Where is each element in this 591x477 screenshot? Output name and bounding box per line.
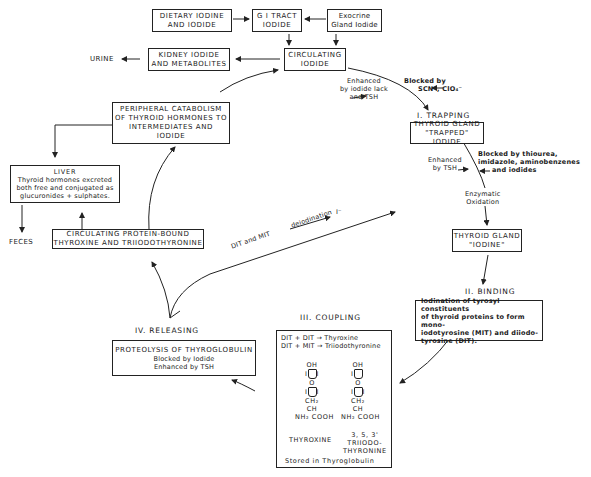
- t4-ring-2: II: [295, 387, 329, 397]
- enz-1: Enzymatic: [465, 190, 501, 198]
- coupling-reactions: DIT + DIT → Thyroxine DIT + MIT → Triiod…: [277, 331, 391, 350]
- circulating-iodide-box: CIRCULATING IODIDE: [284, 48, 346, 71]
- gi-line-1: G I TRACT: [253, 12, 301, 21]
- trap-enh-3: and TSH: [340, 93, 388, 101]
- circ-line-2: IODIDE: [285, 60, 345, 69]
- peri-line-1: PERIPHERAL CATABOLISM: [113, 105, 229, 114]
- ox-block-2: imidazole, aminobenzenes: [478, 158, 580, 166]
- peri-line-4: IODIDE: [113, 132, 229, 141]
- iodine-line-2: "IODINE": [453, 241, 521, 250]
- exocrine-line-1: Exocrine: [328, 12, 381, 21]
- iodine-line-1: THYROID GLAND: [453, 232, 521, 241]
- bind-line-2: of thyroid proteins to form mono-: [421, 313, 542, 329]
- reaction-2: DIT + MIT → Triiodothyronine: [281, 342, 391, 350]
- benzene-ring-icon: [354, 387, 363, 397]
- liver-box: LIVER Thyroid hormones excreted both fre…: [10, 165, 120, 203]
- iodide-ion-label: I⁻: [336, 208, 342, 216]
- kidney-iodide-box: KIDNEY IODIDE AND METABOLITES: [148, 48, 230, 71]
- circ-line-1: CIRCULATING: [285, 51, 345, 60]
- thyroid-gland-iodine-box: THYROID GLAND "IODINE": [452, 229, 522, 252]
- releasing-heading: IV. RELEASING: [135, 326, 199, 335]
- t4-o: O: [295, 379, 329, 387]
- trap-block-2: SCN⁻, ClO₄⁻: [404, 85, 462, 93]
- exocrine-gland-box: Exocrine Gland Iodide: [327, 9, 382, 32]
- oxidation-blocked-label: Blocked by thiourea, imidazole, aminoben…: [478, 150, 580, 174]
- benzene-ring-icon: [308, 369, 317, 379]
- binding-heading: II. BINDING: [465, 287, 515, 296]
- trapping-blocked-label: Blocked by SCN⁻, ClO₄⁻: [404, 77, 462, 93]
- bind-line-3: iodotyrosine (MIT) and diiodo-: [421, 329, 542, 337]
- exocrine-line-2: Gland Iodide: [328, 21, 381, 30]
- peri-line-2: OF THYROID HORMONES TO: [113, 114, 229, 123]
- coupling-box: DIT + DIT → Thyroxine DIT + MIT → Triiod…: [276, 330, 392, 468]
- prot-line-2: Blocked by Iodide: [113, 355, 255, 363]
- t3-name-3: THYRONINE: [343, 447, 387, 455]
- trapped-line-2: "TRAPPED" IODIDE: [411, 129, 483, 147]
- urine-label: URINE: [90, 55, 114, 64]
- dietary-line-2: AND IODIDE: [153, 21, 231, 30]
- t3-i4: I: [363, 388, 366, 396]
- t3-ch: CH: [341, 405, 375, 413]
- dietary-iodine-box: DIETARY IODINE AND IODIDE: [152, 9, 232, 32]
- enz-2: Oxidation: [465, 198, 501, 206]
- liver-title: LIVER: [11, 168, 119, 176]
- t4-oh: OH: [295, 361, 329, 369]
- peri-line-3: INTERMEDIATES AND: [113, 123, 229, 132]
- t4-i2: I: [317, 370, 320, 378]
- oxidation-enhanced-label: Enhanced by TSH: [428, 156, 462, 172]
- t3-nh2-cooh: NH₂ COOH: [341, 413, 375, 421]
- thyroid-trapped-iodide-box: THYROID GLAND "TRAPPED" IODIDE: [410, 122, 484, 144]
- trapped-line-1: THYROID GLAND: [411, 120, 483, 129]
- t4-nh2-cooh: NH₂ COOH: [295, 413, 329, 421]
- triiodothyronine-structure: OH II O II CH₂ CH NH₂ COOH: [341, 361, 375, 421]
- thyroxine-structure: OH II O II CH₂ CH NH₂ COOH: [295, 361, 329, 421]
- t3-o: O: [341, 379, 375, 387]
- pb-line-1: CIRCULATING PROTEIN-BOUND: [53, 230, 203, 239]
- benzene-ring-icon: [354, 369, 363, 379]
- liver-line-3: glucuronides + sulphates.: [11, 192, 119, 200]
- ox-block-3: and iodides: [478, 166, 580, 174]
- t3-name-2: TRIIODO-: [343, 439, 387, 447]
- thyroxine-name: THYROXINE: [289, 436, 332, 444]
- liver-line-1: Thyroid hormones excreted: [11, 176, 119, 184]
- prot-line-1: PROTEOLYSIS OF THYROGLOBULIN: [113, 346, 255, 355]
- t4-ch: CH: [295, 405, 329, 413]
- t4-i4: I: [317, 388, 320, 396]
- ox-block-1: Blocked by thiourea,: [478, 150, 580, 158]
- dietary-line-1: DIETARY IODINE: [153, 12, 231, 21]
- triiodothyronine-name: 3, 5, 3' TRIIODO- THYRONINE: [343, 431, 387, 455]
- reaction-1: DIT + DIT → Thyroxine: [281, 334, 391, 342]
- t3-ring-1: II: [341, 369, 375, 379]
- bind-line-1: Iodination of tyrosyl constituents: [421, 297, 542, 313]
- iodination-box: Iodination of tyrosyl constituents of th…: [415, 300, 543, 341]
- ox-enh-2: by TSH: [428, 164, 462, 172]
- t4-ring-1: II: [295, 369, 329, 379]
- stored-label: Stored in Thyroglobulin: [285, 457, 375, 465]
- kidney-line-1: KIDNEY IODIDE: [149, 51, 229, 60]
- benzene-ring-icon: [308, 387, 317, 397]
- t3-ring-2: II: [341, 387, 375, 397]
- feces-label: FECES: [9, 238, 33, 247]
- enzymatic-oxidation-label: Enzymatic Oxidation: [465, 190, 501, 206]
- peripheral-catabolism-box: PERIPHERAL CATABOLISM OF THYROID HORMONE…: [112, 102, 230, 144]
- t3-name-1: 3, 5, 3': [343, 431, 387, 439]
- coupling-heading: III. COUPLING: [300, 313, 361, 322]
- bind-line-4: tyrosine (DIT).: [421, 337, 542, 345]
- gi-tract-box: G I TRACT IODIDE: [252, 9, 302, 32]
- pb-line-2: THYROXINE AND TRIIODOTHYRONINE: [53, 239, 203, 248]
- trap-enh-1: Enhanced: [340, 77, 388, 85]
- prot-line-3: Enhanced by TSH: [113, 363, 255, 371]
- proteolysis-box: PROTEOLYSIS OF THYROGLOBULIN Blocked by …: [112, 340, 256, 376]
- protein-bound-box: CIRCULATING PROTEIN-BOUND THYROXINE AND …: [52, 229, 204, 249]
- trap-block-1: Blocked by: [404, 77, 462, 85]
- trap-enh-2: by iodide lack: [340, 85, 388, 93]
- kidney-line-2: AND METABOLITES: [149, 60, 229, 69]
- t3-oh: OH: [341, 361, 375, 369]
- gi-line-2: IODIDE: [253, 21, 301, 30]
- t4-ch2: CH₂: [295, 397, 329, 405]
- t3-ch2: CH₂: [341, 397, 375, 405]
- liver-line-2: both free and conjugated as: [11, 184, 119, 192]
- ox-enh-1: Enhanced: [428, 156, 462, 164]
- trapping-enhanced-label: Enhanced by iodide lack and TSH: [340, 77, 388, 101]
